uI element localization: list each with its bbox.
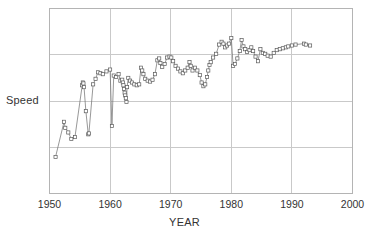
x-axis-label: YEAR: [0, 216, 369, 228]
x-tick-label-1980: 1980: [220, 198, 243, 210]
x-tick-label-1970: 1970: [159, 198, 182, 210]
chart-figure: Speed YEAR 195019601970198019902000: [0, 0, 369, 238]
x-tick-label-1950: 1950: [38, 198, 61, 210]
x-tick-label-1960: 1960: [98, 198, 121, 210]
grid-lines: [50, 9, 353, 194]
x-tick-label-2000: 2000: [341, 198, 364, 210]
x-tick-label-1990: 1990: [280, 198, 303, 210]
y-axis-label: Speed: [6, 94, 39, 106]
